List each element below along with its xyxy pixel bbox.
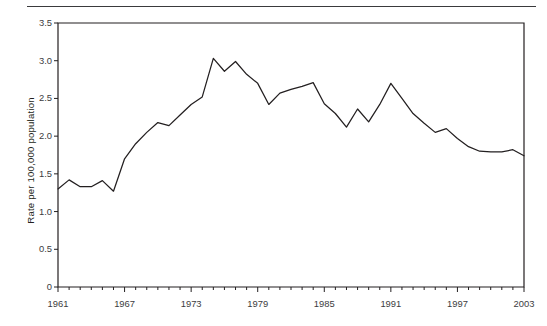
chart-figure: Rate per 100,000 population 00.51.01.52.… — [0, 0, 547, 326]
plot-area — [0, 0, 547, 326]
x-axis-ticks — [58, 287, 524, 292]
data-series-line — [58, 58, 524, 191]
